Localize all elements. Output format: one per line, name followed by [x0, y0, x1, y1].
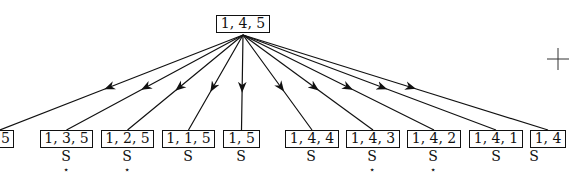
edge-arrow [243, 35, 312, 130]
child-node: 1, 4 [530, 130, 566, 148]
star-marker: ⋆ [61, 165, 71, 175]
edge-arrow [67, 35, 244, 130]
edge-arrow [243, 35, 548, 130]
status-label: S [0, 149, 5, 163]
status-label: S [486, 149, 506, 163]
edge-arrow [243, 35, 373, 130]
edge-arrow [242, 35, 244, 130]
child-node: 1, 4, 1 [469, 130, 523, 148]
edge-arrow [0, 35, 243, 130]
child-node: 1, 5 [223, 130, 260, 148]
status-label: S [362, 149, 382, 163]
star-marker: ⋆ [367, 165, 377, 175]
status-label: S [524, 149, 544, 163]
star-marker: ⋆ [428, 165, 438, 175]
status-label: S [117, 149, 137, 163]
child-node: 1, 3, 5 [40, 130, 93, 148]
edge-arrow [243, 35, 496, 130]
child-node: 1, 2, 5 [101, 130, 154, 148]
status-label: S [56, 149, 76, 163]
child-node: 1, 1, 5 [162, 130, 215, 148]
child-node: 5 [0, 130, 14, 148]
child-node: 1, 4, 4 [285, 130, 339, 148]
status-label: S [423, 149, 443, 163]
status-label: S [301, 149, 321, 163]
status-label: S [231, 149, 251, 163]
child-node: 1, 4, 2 [407, 130, 461, 148]
edge-arrow [128, 35, 244, 130]
status-label: S [178, 149, 198, 163]
root-node: 1, 4, 5 [216, 15, 270, 33]
star-marker: ⋆ [122, 165, 132, 175]
child-node: 1, 4, 3 [346, 130, 400, 148]
crosshair-icon [547, 48, 569, 70]
edge-arrow [243, 35, 434, 130]
